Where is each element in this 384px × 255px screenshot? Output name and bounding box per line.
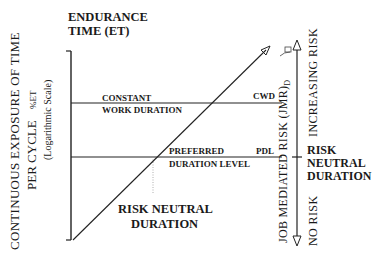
y-axis-label: CONTINUOUS EXPOSURE OF TIME [7,32,23,250]
jmr-subscript: D [283,80,292,86]
y-axis-scale-note: (Logarithmic Scale) [42,80,53,160]
jmr-axis-label: JOB MEDIATED RISK (JMR)D [276,80,291,243]
arrow-down-icon [293,236,301,246]
bottom-label-line1: RISK NEUTRAL [118,203,213,216]
cwd-label-line2: WORK DURATION [102,105,182,115]
cwd-label-line1: CONSTANT [102,93,151,103]
title-line2: TIME (ET) [68,24,148,38]
y-axis-unit: %ET [28,91,38,110]
cwd-tag: CWD [253,91,275,101]
chart-title: ENDURANCE TIME (ET) [68,10,148,38]
increasing-risk-label: INCREASING RISK [306,28,321,137]
title-line1: ENDURANCE [68,10,148,24]
pdl-label-line2: DURATION LEVEL [169,159,250,169]
no-risk-label: NO RISK [306,196,321,246]
pdl-tag: PDL [256,146,274,156]
y-axis-label-line2: PER CYCLE %ET [24,91,40,190]
bottom-label-line2: DURATION [131,218,198,231]
arrow-up-icon [293,40,301,50]
right-mid-label: RISK NEUTRAL DURATION [307,144,371,183]
pdl-label-line1: PREFERRED [169,146,224,156]
